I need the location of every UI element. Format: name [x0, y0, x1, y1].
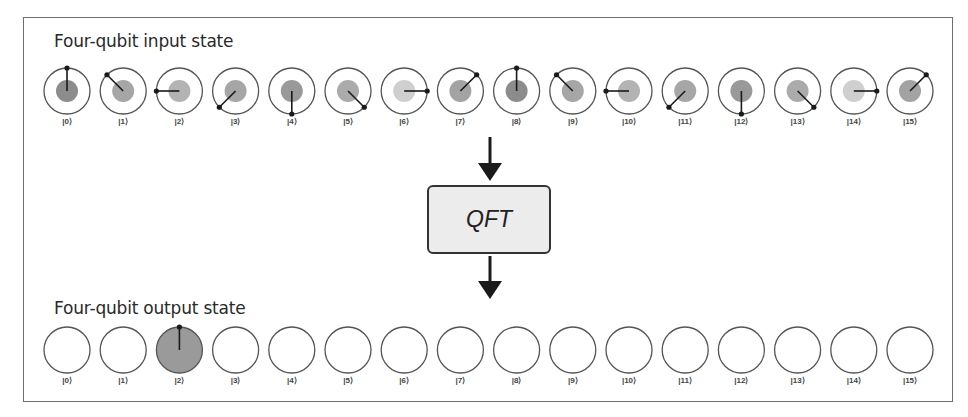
state-circle: |3⟩ [213, 68, 259, 126]
basis-state-label: |9⟩ [568, 117, 578, 126]
basis-state-label: |4⟩ [287, 376, 297, 385]
basis-state-label: |7⟩ [456, 117, 466, 126]
phase-dot [154, 88, 159, 93]
outer-circle [381, 327, 427, 373]
phase-dot [514, 65, 519, 70]
phase-dot [739, 111, 744, 116]
basis-state-label: |15⟩ [903, 376, 917, 385]
outer-circle [831, 327, 877, 373]
state-circle: |11⟩ [662, 327, 708, 385]
outer-circle [269, 327, 315, 373]
phase-dot [474, 72, 479, 77]
arrow-down-icon [478, 256, 502, 299]
basis-state-label: |0⟩ [62, 117, 72, 126]
state-circle: |6⟩ [381, 68, 430, 126]
basis-state-label: |8⟩ [512, 117, 522, 126]
basis-state-label: |6⟩ [399, 117, 409, 126]
phase-dot [811, 105, 816, 110]
state-circle: |13⟩ [775, 68, 821, 126]
phase-dot [289, 111, 294, 116]
state-circle: |13⟩ [775, 327, 821, 385]
output-state-row: |0⟩|1⟩|2⟩|3⟩|4⟩|5⟩|6⟩|7⟩|8⟩|9⟩|10⟩|11⟩|1… [44, 324, 933, 385]
outer-circle [100, 327, 146, 373]
state-circle: |14⟩ [831, 68, 880, 126]
basis-state-label: |6⟩ [399, 376, 409, 385]
outer-circle [325, 327, 371, 373]
basis-state-label: |2⟩ [175, 376, 185, 385]
basis-state-label: |8⟩ [512, 376, 522, 385]
state-circle: |15⟩ [887, 327, 933, 385]
state-circle: |2⟩ [154, 68, 203, 126]
basis-state-label: |12⟩ [734, 376, 748, 385]
outer-circle [213, 327, 259, 373]
outer-circle [550, 327, 596, 373]
state-circle: |5⟩ [325, 327, 371, 385]
basis-state-label: |14⟩ [847, 117, 861, 126]
basis-state-label: |11⟩ [678, 376, 692, 385]
basis-state-label: |3⟩ [231, 117, 241, 126]
outer-circle [494, 327, 540, 373]
phase-dot [924, 72, 929, 77]
phase-dot [217, 105, 222, 110]
basis-state-label: |13⟩ [791, 376, 805, 385]
basis-state-label: |12⟩ [734, 117, 748, 126]
state-circle: |4⟩ [269, 327, 315, 385]
state-circle: |5⟩ [325, 68, 371, 126]
basis-state-label: |1⟩ [118, 117, 128, 126]
state-circle: |8⟩ [494, 65, 540, 126]
basis-state-label: |1⟩ [118, 376, 128, 385]
basis-state-label: |7⟩ [456, 376, 466, 385]
state-circle: |1⟩ [100, 68, 146, 126]
phase-dot [177, 324, 182, 329]
outer-circle [887, 327, 933, 373]
basis-state-label: |4⟩ [287, 117, 297, 126]
arrow-down-icon [478, 137, 502, 181]
state-circle: |4⟩ [269, 68, 315, 126]
basis-state-label: |13⟩ [791, 117, 805, 126]
outer-circle [662, 327, 708, 373]
state-circle: |12⟩ [718, 327, 764, 385]
phase-dot [64, 65, 69, 70]
outer-circle [775, 327, 821, 373]
basis-state-label: |3⟩ [231, 376, 241, 385]
phase-dot [603, 88, 608, 93]
state-circle: |1⟩ [100, 327, 146, 385]
outer-circle [44, 327, 90, 373]
basis-state-label: |2⟩ [175, 117, 185, 126]
state-circle: |9⟩ [550, 327, 596, 385]
phase-dot [362, 105, 367, 110]
basis-state-label: |5⟩ [343, 117, 353, 126]
outer-circle [437, 327, 483, 373]
phase-dot [874, 88, 879, 93]
state-circle: |11⟩ [662, 68, 708, 126]
state-circle: |10⟩ [606, 327, 652, 385]
state-circle: |12⟩ [718, 68, 764, 126]
state-circle: |10⟩ [603, 68, 652, 126]
state-circle: |15⟩ [887, 68, 933, 126]
state-circle: |0⟩ [44, 327, 90, 385]
outer-circle [718, 327, 764, 373]
basis-state-label: |10⟩ [622, 117, 636, 126]
state-circle: |2⟩ [156, 324, 202, 385]
basis-state-label: |5⟩ [343, 376, 353, 385]
state-circle: |7⟩ [437, 68, 483, 126]
state-circle: |6⟩ [381, 327, 427, 385]
qft-label: QFT [428, 186, 550, 253]
state-circle: |7⟩ [437, 327, 483, 385]
state-circle: |9⟩ [550, 68, 596, 126]
phase-dot [425, 88, 430, 93]
state-circle: |8⟩ [494, 327, 540, 385]
input-state-row: |0⟩|1⟩|2⟩|3⟩|4⟩|5⟩|6⟩|7⟩|8⟩|9⟩|10⟩|11⟩|1… [44, 65, 933, 126]
basis-state-label: |0⟩ [62, 376, 72, 385]
basis-state-label: |14⟩ [847, 376, 861, 385]
basis-state-label: |9⟩ [568, 376, 578, 385]
outer-circle [606, 327, 652, 373]
state-circle: |0⟩ [44, 65, 90, 126]
phase-dot [104, 72, 109, 77]
basis-state-label: |10⟩ [622, 376, 636, 385]
phase-dot [666, 105, 671, 110]
basis-state-label: |15⟩ [903, 117, 917, 126]
state-circle: |14⟩ [831, 327, 877, 385]
phase-dot [554, 72, 559, 77]
state-circle: |3⟩ [213, 327, 259, 385]
